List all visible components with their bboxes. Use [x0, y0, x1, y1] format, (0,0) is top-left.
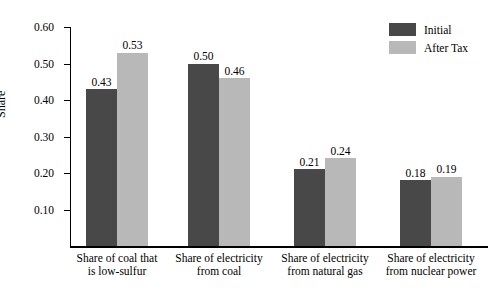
bar-after-tax: 0.19 — [431, 177, 462, 246]
bar-group: 0.43 0.53 — [86, 27, 148, 246]
bar-value-label: 0.19 — [436, 164, 456, 176]
bar-group: 0.50 0.46 — [188, 27, 250, 246]
bar-value-label: 0.53 — [122, 40, 142, 52]
x-axis-category-label: Share of electricity from coal — [161, 252, 277, 278]
bar-value-label: 0.43 — [91, 77, 111, 89]
bar-value-label: 0.24 — [330, 146, 350, 158]
x-label-line-1: Share of electricity — [281, 252, 369, 264]
y-tick-label: 0.60 — [34, 21, 54, 33]
bar-group: 0.18 0.19 — [400, 27, 462, 246]
x-axis-category-label: Share of electricity from nuclear power — [373, 252, 489, 278]
chart-legend: Initial After Tax — [389, 22, 468, 58]
bar-chart: Share 0.60 0.50 0.40 0.30 0.20 0.10 0.43… — [0, 0, 502, 292]
x-label-line-2: is low-sulfur — [59, 265, 175, 278]
x-label-line-1: Share of electricity — [175, 252, 263, 264]
x-label-line-1: Share of electricity — [387, 252, 475, 264]
y-tick-label: 0.40 — [34, 94, 54, 106]
legend-label: Initial — [424, 24, 451, 36]
legend-swatch-icon — [389, 41, 416, 54]
bar-initial: 0.21 — [294, 169, 325, 246]
legend-item-after-tax: After Tax — [389, 40, 468, 55]
x-axis-category-label: Share of coal that is low-sulfur — [59, 252, 175, 278]
legend-swatch-icon — [389, 23, 416, 36]
legend-label: After Tax — [424, 42, 468, 54]
x-axis-category-label: Share of electricity from natural gas — [267, 252, 383, 278]
bar-value-label: 0.46 — [224, 66, 244, 78]
bar-group: 0.21 0.24 — [294, 27, 356, 246]
y-tick-label: 0.50 — [34, 58, 54, 70]
y-tick-label: 0.20 — [34, 167, 54, 179]
bar-after-tax: 0.24 — [325, 158, 356, 246]
bar-value-label: 0.21 — [299, 157, 319, 169]
bar-after-tax: 0.53 — [117, 53, 148, 246]
x-label-line-2: from coal — [161, 265, 277, 278]
y-axis-tick-labels: 0.60 0.50 0.40 0.30 0.20 0.10 — [0, 0, 62, 292]
bar-after-tax: 0.46 — [219, 78, 250, 246]
bar-initial: 0.50 — [188, 64, 219, 247]
bar-value-label: 0.50 — [193, 51, 213, 63]
bar-initial: 0.18 — [400, 180, 431, 246]
x-axis-line — [70, 246, 488, 248]
bar-initial: 0.43 — [86, 89, 117, 246]
legend-item-initial: Initial — [389, 22, 468, 37]
x-label-line-2: from nuclear power — [373, 265, 489, 278]
x-label-line-1: Share of coal that — [77, 252, 158, 264]
bar-value-label: 0.18 — [405, 168, 425, 180]
y-tick-label: 0.30 — [34, 131, 54, 143]
y-tick-label: 0.10 — [34, 204, 54, 216]
x-label-line-2: from natural gas — [267, 265, 383, 278]
plot-area: 0.43 0.53 0.50 0.46 0.21 0.24 0.18 — [70, 27, 488, 246]
